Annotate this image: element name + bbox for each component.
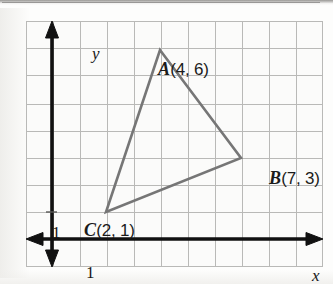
x-axis-tick-label-1: 1 xyxy=(86,264,95,281)
y-axis-tick-label-1: 1 xyxy=(52,224,61,241)
point-coords-a: (4, 6) xyxy=(170,60,208,79)
point-name-b: B xyxy=(269,168,281,188)
x-axis-label: x xyxy=(312,267,320,284)
scan-artifact-bottom xyxy=(0,270,333,284)
coordinate-plane-figure: A(4, 6) B(7, 3) C(2, 1) y x 1 1 xyxy=(26,21,323,267)
point-label-b: B(7, 3) xyxy=(269,169,320,187)
point-name-a: A xyxy=(158,59,170,79)
x-axis xyxy=(26,233,323,246)
point-label-a: A(4, 6) xyxy=(158,60,209,78)
point-label-c: C(2, 1) xyxy=(84,221,135,239)
point-coords-c: (2, 1) xyxy=(96,221,134,240)
axes-and-triangle xyxy=(26,21,323,267)
point-coords-b: (7, 3) xyxy=(281,169,319,188)
point-name-c: C xyxy=(84,220,96,240)
scan-page-edge xyxy=(0,0,333,5)
y-axis-label: y xyxy=(92,45,100,62)
